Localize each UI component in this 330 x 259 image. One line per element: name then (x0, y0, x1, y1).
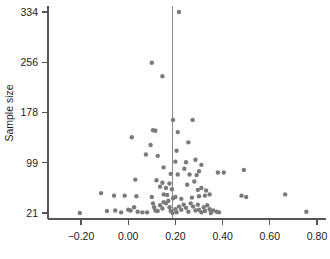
data-point (193, 157, 197, 161)
data-point (130, 135, 134, 139)
data-point (176, 172, 180, 176)
data-point (197, 194, 201, 198)
data-point (164, 186, 168, 190)
data-point (184, 206, 188, 210)
data-point (176, 130, 180, 134)
y-tick-label: 256 (20, 56, 38, 68)
data-point (199, 186, 203, 190)
data-point (170, 187, 174, 191)
y-tick-label: 334 (20, 6, 38, 18)
data-point (174, 210, 178, 214)
data-point (205, 203, 209, 207)
y-axis-ticks: 2199178256334 (20, 6, 48, 219)
data-point (150, 195, 154, 199)
data-point (207, 192, 211, 196)
data-point (204, 188, 208, 192)
data-point (239, 193, 243, 197)
data-point (217, 210, 221, 214)
data-point (151, 201, 155, 205)
data-point (190, 195, 194, 199)
x-tick-label: −0.20 (68, 230, 95, 242)
data-point (186, 210, 190, 214)
data-point (179, 197, 183, 201)
data-point (194, 173, 198, 177)
data-point (135, 210, 139, 214)
data-points-layer (78, 10, 309, 215)
data-point (182, 166, 186, 170)
data-point (192, 179, 196, 183)
data-point (99, 191, 103, 195)
data-point (216, 170, 220, 174)
data-point (186, 140, 190, 144)
data-point (171, 118, 175, 122)
data-point (304, 210, 308, 214)
y-tick-label: 178 (20, 106, 38, 118)
data-point (112, 193, 116, 197)
x-tick-label: 0.80 (307, 230, 328, 242)
data-point (165, 193, 169, 197)
data-point (158, 184, 162, 188)
data-point (191, 204, 195, 208)
data-point (244, 195, 248, 199)
data-point (196, 202, 200, 206)
data-point (154, 178, 158, 182)
data-point (184, 160, 188, 164)
data-point (283, 192, 287, 196)
data-point (187, 172, 191, 176)
data-point (161, 165, 165, 169)
data-point (113, 208, 117, 212)
data-point (153, 129, 157, 133)
data-point (179, 208, 183, 212)
data-point (160, 206, 164, 210)
data-point (203, 193, 207, 197)
data-point (173, 159, 177, 163)
data-point (222, 170, 226, 174)
scatter-plot-canvas: 2199178256334 −0.200.000.200.400.600.80 … (0, 0, 330, 259)
x-tick-label: 0.40 (212, 230, 233, 242)
data-point (148, 143, 152, 147)
data-point (166, 199, 170, 203)
data-point (105, 209, 109, 213)
data-point (144, 152, 148, 156)
data-point (185, 183, 189, 187)
data-point (173, 195, 177, 199)
data-point (134, 194, 138, 198)
data-point (160, 181, 164, 185)
data-point (242, 168, 246, 172)
data-point (156, 154, 160, 158)
data-point (150, 61, 154, 65)
data-point (145, 210, 149, 214)
x-tick-label: 0.00 (118, 230, 139, 242)
data-point (197, 169, 201, 173)
funnel-plot-figure: 2199178256334 −0.200.000.200.400.600.80 … (0, 0, 330, 259)
data-point (128, 208, 132, 212)
data-point (177, 10, 181, 14)
data-point (167, 205, 171, 209)
data-point (168, 172, 172, 176)
x-tick-label: 0.20 (165, 230, 186, 242)
data-point (133, 177, 137, 181)
x-axis-ticks: −0.200.000.200.400.600.80 (68, 219, 328, 242)
data-point (119, 210, 123, 214)
data-point (140, 210, 144, 214)
data-point (190, 118, 194, 122)
data-point (170, 211, 174, 215)
data-point (160, 74, 164, 78)
y-tick-label: 21 (26, 207, 38, 219)
data-point (122, 193, 126, 197)
data-point (156, 209, 160, 213)
data-point (203, 209, 207, 213)
data-point (199, 163, 203, 167)
y-axis-title: Sample size (3, 84, 15, 141)
y-tick-label: 99 (26, 157, 38, 169)
data-point (174, 149, 178, 153)
data-point (132, 205, 136, 209)
data-point (167, 181, 171, 185)
x-tick-label: 0.60 (260, 230, 281, 242)
data-point (78, 211, 82, 215)
axes-group (48, 6, 326, 219)
